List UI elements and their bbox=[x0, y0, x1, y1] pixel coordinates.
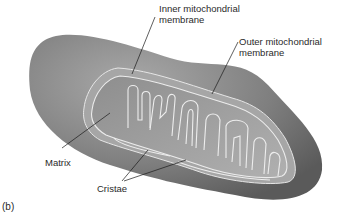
label-inner-membrane: Inner mitochondrial membrane bbox=[159, 4, 240, 25]
label-outer-membrane: Outer mitochondrial membrane bbox=[239, 37, 322, 58]
label-inner-membrane-line2: membrane bbox=[159, 15, 240, 26]
mitochondrion-diagram bbox=[0, 0, 342, 222]
label-outer-membrane-line2: membrane bbox=[239, 48, 322, 59]
label-outer-membrane-line1: Outer mitochondrial bbox=[239, 37, 322, 48]
label-matrix: Matrix bbox=[45, 158, 71, 169]
label-cristae: Cristae bbox=[97, 184, 127, 195]
label-inner-membrane-line1: Inner mitochondrial bbox=[159, 4, 240, 15]
panel-label: (b) bbox=[2, 201, 14, 212]
